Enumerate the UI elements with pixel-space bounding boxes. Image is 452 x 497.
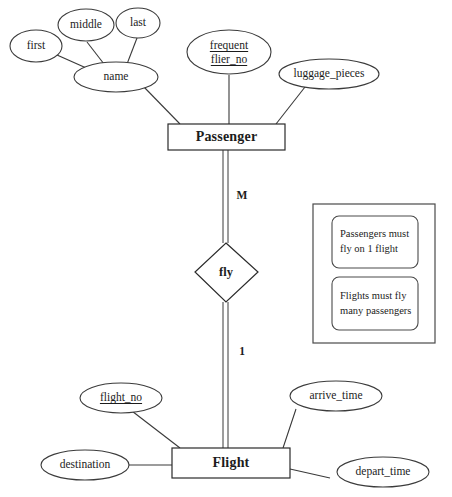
- attribute-ellipse-middle: [58, 9, 114, 41]
- attribute-ellipse-destination: [41, 450, 129, 480]
- attribute-ellipse-luggage-pieces: [279, 59, 379, 89]
- er-diagram-canvas: first middle last name frequent flier_no…: [0, 0, 452, 497]
- edge-flightno-to-flight: [128, 408, 180, 448]
- edge-middle-to-name: [87, 42, 104, 64]
- edge-name-to-passenger: [143, 86, 180, 124]
- note-box-1: [332, 216, 418, 268]
- attribute-ellipse-flight-no: [80, 383, 162, 413]
- entity-box-flight: [172, 448, 290, 478]
- entity-box-passenger: [168, 124, 285, 150]
- attribute-ellipse-first: [10, 30, 62, 62]
- relationship-diamond-fly: [195, 243, 258, 302]
- edge-arrivetime-to-flight: [283, 409, 296, 448]
- edge-luggagepieces-to-passenger: [276, 87, 305, 124]
- attribute-ellipse-depart-time: [337, 457, 429, 487]
- edge-last-to-name: [127, 38, 137, 64]
- edge-departtime-to-flight: [290, 469, 330, 478]
- attribute-ellipse-name: [74, 62, 158, 92]
- note-box-2: [332, 277, 418, 330]
- attribute-ellipse-frequent-flier-no: [187, 30, 271, 74]
- attribute-ellipse-arrive-time: [290, 381, 382, 411]
- er-diagram-graphics: [0, 0, 452, 497]
- attribute-ellipse-last: [116, 8, 160, 38]
